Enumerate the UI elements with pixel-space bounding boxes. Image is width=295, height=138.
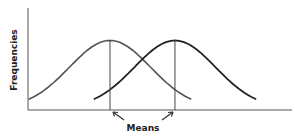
arrow-right [162, 112, 173, 120]
y-axis-label: Frequencies [9, 29, 19, 90]
arrow-left [113, 112, 124, 120]
means-label: Means [127, 123, 160, 133]
distribution-diagram: Frequencies Means [0, 0, 295, 138]
